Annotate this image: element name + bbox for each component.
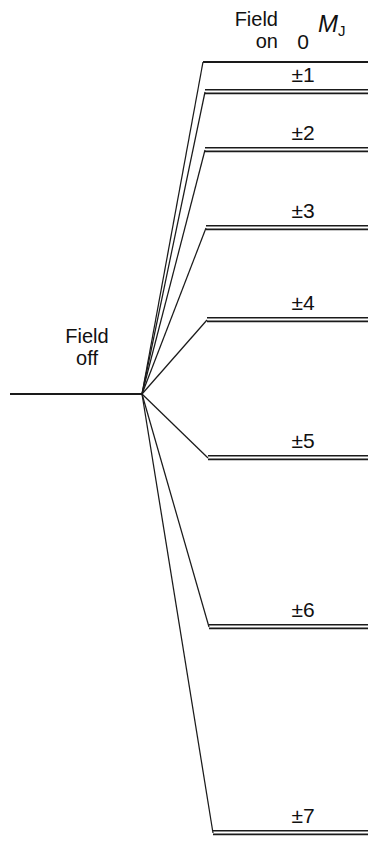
field-on-header-line1: Field: [180, 8, 278, 30]
level-label-mj-4: ±4: [291, 291, 314, 315]
mj-axis-header: MJ: [318, 10, 346, 39]
correlation-line-mj-0: [142, 62, 203, 394]
level-label-mj-1: ±1: [291, 63, 314, 87]
level-label-mj-7: ±7: [291, 804, 314, 828]
correlation-lines-group: [142, 62, 213, 833]
zeeman-splitting-diagram: Field on MJ Field off 0±1±2±3±4±5±6±7: [0, 0, 382, 857]
mj-subscript: J: [338, 22, 346, 39]
correlation-line-mj-3: [142, 228, 206, 394]
level-label-mj-3: ±3: [291, 199, 314, 223]
correlation-line-mj-7: [142, 394, 213, 833]
energy-level-diagram-canvas: [0, 0, 382, 857]
correlation-line-mj-1: [142, 92, 205, 394]
field-on-header: Field on: [180, 8, 278, 52]
level-label-mj-2: ±2: [291, 121, 314, 145]
level-label-mj-6: ±6: [291, 598, 314, 622]
correlation-line-mj-5: [142, 394, 208, 458]
field-on-header-line2: on: [180, 30, 278, 52]
field-off-label: Field off: [28, 325, 146, 369]
mj-symbol: M: [318, 10, 338, 37]
correlation-line-mj-6: [142, 394, 209, 627]
field-on-levels-group: [203, 62, 368, 834]
field-off-label-line1: Field: [28, 325, 146, 347]
field-off-label-line2: off: [28, 347, 146, 369]
level-label-mj-0: 0: [297, 30, 309, 54]
level-label-mj-5: ±5: [291, 429, 314, 453]
